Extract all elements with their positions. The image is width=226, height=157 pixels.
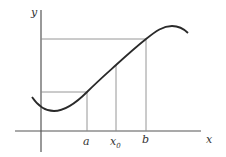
y-axis-label: y: [31, 7, 37, 18]
tick-label-x0: x0: [110, 136, 121, 150]
tick-label-b: b: [142, 134, 149, 145]
function-graph: [0, 0, 226, 157]
tick-label-a: a: [83, 136, 90, 147]
x0-subscript: 0: [116, 142, 120, 150]
x-axis-label: x: [206, 134, 212, 145]
